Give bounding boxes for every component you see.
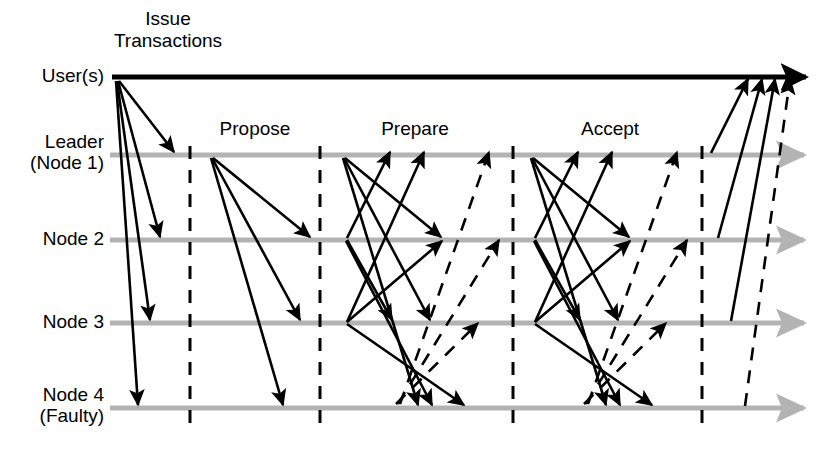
message-accept-leader-to-node4: [531, 158, 606, 405]
node-timelines-group: [110, 155, 804, 408]
message-prepare-node3-to-node4: [347, 324, 464, 405]
lane-label-line2: (Node 1): [0, 152, 104, 173]
lane-label-line1: Node 3: [0, 311, 104, 332]
message-propose-leader-to-node4: [211, 158, 283, 405]
lane-label-node4: Node 4(Faulty): [0, 384, 104, 427]
phase-label-line: Issue: [78, 8, 258, 30]
lane-label-user: User(s): [0, 65, 104, 86]
message-prepare-node4-to-node3: [396, 323, 478, 404]
phase-label-line: Accept: [520, 118, 700, 140]
lane-label-line1: Node 2: [0, 228, 104, 249]
phase-label-line: Prepare: [325, 118, 505, 140]
message-issue-user-to-node3: [117, 81, 150, 320]
diagram-svg: [0, 0, 838, 466]
message-reply-leader-to-user: [711, 79, 748, 153]
message-accept-leader-to-node2: [533, 158, 629, 237]
phase-label-propose: Propose: [165, 118, 345, 140]
phase-label-accept: Accept: [520, 118, 700, 140]
lane-label-line1: Leader: [0, 131, 104, 152]
lane-label-node2: Node 2: [0, 228, 104, 249]
message-accept-node3-to-node4: [535, 324, 652, 405]
message-prepare-leader-to-node2: [345, 158, 441, 237]
message-issue-user-to-node4: [116, 81, 138, 405]
lane-label-line1: User(s): [0, 65, 104, 86]
sequence-diagram-canvas: User(s)Leader(Node 1)Node 2Node 3Node 4(…: [0, 0, 838, 466]
message-accept-node4-to-node3: [584, 323, 666, 404]
message-reply-node2-to-user: [718, 79, 762, 238]
message-propose-leader-to-node2: [213, 158, 310, 237]
phase-label-issue: IssueTransactions: [78, 8, 258, 52]
lane-label-line1: Node 4: [0, 384, 104, 405]
phase-label-line: Transactions: [78, 30, 258, 52]
lane-label-node3: Node 3: [0, 311, 104, 332]
phase-dividers-group: [190, 146, 702, 424]
message-prepare-leader-to-node4: [343, 158, 418, 405]
phase-label-line: Propose: [165, 118, 345, 140]
phase-label-prepare: Prepare: [325, 118, 505, 140]
lane-label-leader: Leader(Node 1): [0, 131, 104, 174]
lane-label-line2: (Faulty): [0, 405, 104, 426]
